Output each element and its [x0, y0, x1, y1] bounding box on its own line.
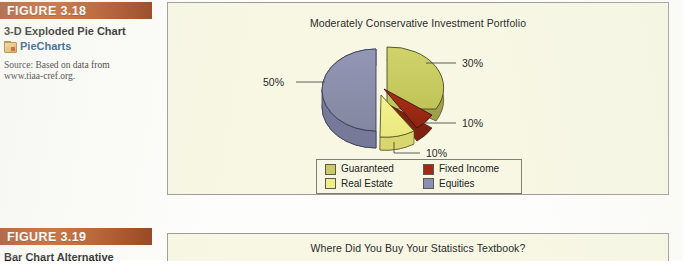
- legend-swatch-guaranteed: [325, 164, 336, 175]
- figure-319-band-label: FIGURE 3.19: [0, 230, 86, 244]
- legend-swatch-fixed-income: [423, 164, 434, 175]
- legend-label-real-estate: Real Estate: [341, 178, 393, 190]
- pie-slice-equities: [322, 49, 376, 148]
- figure-319-chart-panel: Where Did You Buy Your Statistics Textbo…: [167, 233, 669, 261]
- figure-318-dataset-label: PieCharts: [20, 40, 71, 52]
- data-label-guaranteed: 30%: [462, 57, 483, 69]
- data-label-equities: 50%: [263, 76, 284, 88]
- figure-318-dataset: PieCharts: [0, 38, 156, 52]
- legend-swatch-real-estate: [325, 178, 336, 189]
- legend-item-equities: Equities: [419, 177, 517, 192]
- figure-318-source-line1: Source: Based on data from: [4, 60, 152, 71]
- legend-label-fixed-income: Fixed Income: [439, 163, 499, 175]
- figure-318-band: FIGURE 3.18: [0, 2, 152, 19]
- figure-319-band: FIGURE 3.19: [0, 228, 152, 245]
- figure-318-caption: FIGURE 3.18 3-D Exploded Pie Chart PieCh…: [0, 2, 156, 82]
- data-label-fixed-income: 10%: [462, 117, 483, 129]
- figure-318-title: 3-D Exploded Pie Chart: [0, 19, 156, 38]
- legend-item-fixed-income: Fixed Income: [419, 162, 517, 177]
- document-icon: [4, 41, 16, 52]
- figure-319-caption: FIGURE 3.19 Bar Chart Alternative: [0, 228, 156, 264]
- figure-318-chart-panel: Moderately Conservative Investment Portf…: [167, 2, 669, 195]
- legend-item-guaranteed: Guaranteed: [321, 162, 419, 177]
- figure-318-source: Source: Based on data from www.tiaa-cref…: [0, 52, 156, 82]
- chart-title-319: Where Did You Buy Your Statistics Textbo…: [168, 242, 668, 254]
- data-label-real-estate: 10%: [426, 147, 447, 159]
- legend-label-equities: Equities: [439, 178, 475, 190]
- chart-legend: Guaranteed Fixed Income Real Estate Equi…: [316, 159, 522, 194]
- figure-318-band-label: FIGURE 3.18: [0, 4, 86, 18]
- figure-319-title: Bar Chart Alternative: [0, 245, 156, 264]
- legend-swatch-equities: [423, 178, 434, 189]
- legend-item-real-estate: Real Estate: [321, 177, 419, 192]
- legend-label-guaranteed: Guaranteed: [341, 163, 394, 175]
- figure-318-source-line2: www.tiaa-cref.org.: [4, 71, 152, 82]
